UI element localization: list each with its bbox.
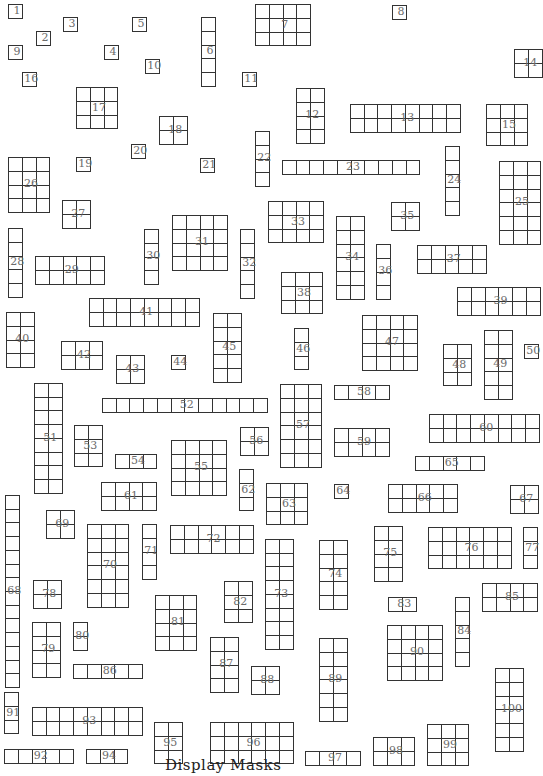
block-cell [281,484,295,498]
block-cell [269,230,283,244]
block-cell [337,231,351,245]
block-cell [295,454,309,468]
diagram-caption: Display Masks [165,756,281,774]
block-cell [239,737,253,751]
block-cell [131,299,145,313]
block-cell [447,105,461,119]
block-cell [256,173,270,187]
block-80 [73,622,88,651]
block-cell [9,46,23,60]
block-cell [115,708,129,722]
block-cell [406,105,420,119]
block-cell [310,202,324,216]
block-cell [225,638,239,652]
block-cell [102,483,116,497]
block-cell [513,288,527,302]
block-88 [251,666,280,695]
block-cell [391,344,405,358]
block-cell [444,373,458,387]
block-cell [335,429,349,443]
block-cell [35,398,49,412]
block-cell [6,551,20,565]
block-cell [284,19,298,33]
block-cell [309,399,323,413]
block-cell [388,752,402,766]
block-cell [103,399,117,413]
block-cell [49,480,63,494]
block-73 [265,539,294,650]
block-cell [446,175,460,189]
block-cell [388,738,402,752]
block-cell [49,439,63,453]
block-cell [228,355,242,369]
block-13 [350,104,461,133]
block-cell [471,429,485,443]
block-cell [320,667,334,681]
block-cell [497,584,511,598]
block-23 [282,160,420,175]
block-cell [525,500,539,514]
block-cell [115,750,129,764]
block-cell [62,356,76,370]
block-cell [23,186,37,200]
block-cell [320,582,334,596]
block-cell [6,674,20,688]
block-cell [228,328,242,342]
block-cell [393,161,407,175]
block-2 [36,31,51,46]
block-cell [296,287,310,301]
block-cell [459,246,473,260]
block-cell [374,752,388,766]
block-cell [284,5,298,19]
block-cell [105,88,119,102]
block-cell [173,216,187,230]
block-cell [443,528,457,542]
block-cell [472,288,486,302]
block-cell [456,598,470,612]
block-cell [270,5,284,19]
block-cell [280,567,294,581]
block-cell [201,159,215,173]
block-cell [402,626,416,640]
block-cell [500,203,514,217]
block-cell [510,738,524,752]
block-cell [144,399,158,413]
block-cell [280,723,294,737]
block-cell [9,186,23,200]
block-cell [500,217,514,231]
block-cell [9,270,23,284]
block-cell [37,172,51,186]
block-cell [75,454,89,468]
block-cell [49,466,63,480]
block-cell [9,5,23,19]
block-cell [91,116,105,130]
block-cell [252,737,266,751]
block-72 [170,525,254,554]
block-cell [170,610,184,624]
block-cell [6,523,20,537]
block-cell [320,752,334,766]
block-cell [456,639,470,653]
block-39 [457,287,541,316]
block-cell [33,722,47,736]
block-cell [309,454,323,468]
block-16 [22,72,37,87]
block-cell [375,568,389,582]
block-cell [297,161,311,175]
block-cell [296,301,310,315]
block-cell [226,526,240,540]
block-cell [334,653,348,667]
block-cell [310,273,324,287]
block-cell [389,555,403,569]
block-cell [88,566,102,580]
block-cell [337,258,351,272]
block-cell [7,341,21,355]
block-9 [8,45,23,60]
block-cell [446,202,460,216]
block-cell [376,429,390,443]
block-cell [60,708,74,722]
block-cell [200,455,214,469]
block-74 [319,540,348,610]
block-cell [456,753,470,767]
block-cell [526,415,540,429]
